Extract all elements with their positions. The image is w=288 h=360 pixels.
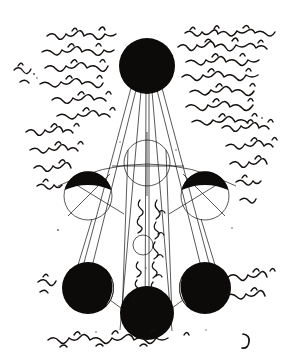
- body-lower-right: [179, 262, 231, 314]
- folio-scan: [0, 0, 288, 360]
- body-bottom: [120, 286, 174, 340]
- manuscript-page: الخط المار بالمركز ر Seven circles arran…: [0, 0, 288, 360]
- body-top: [119, 38, 175, 94]
- body-lower-left: [62, 262, 114, 314]
